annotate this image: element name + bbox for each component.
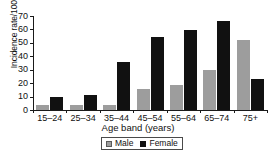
plot-area: 010203040506070 15–2425–3435–4445–5455–6…	[33, 16, 267, 111]
y-tick	[30, 83, 33, 84]
y-tick	[30, 97, 33, 98]
legend-swatch-female-icon	[140, 141, 146, 147]
bar-female	[50, 97, 63, 110]
legend-swatch-male-icon	[106, 141, 112, 147]
bar-chart: Incidence rate/100 000 010203040506070 1…	[0, 0, 276, 155]
y-tick	[30, 43, 33, 44]
bar-male	[103, 105, 116, 110]
y-tick	[30, 70, 33, 71]
bar-female	[184, 30, 197, 110]
legend-item-female[interactable]: Female	[140, 139, 177, 148]
legend-item-male[interactable]: Male	[106, 139, 133, 148]
y-tick-label: 0	[23, 106, 28, 115]
bar-female	[151, 37, 164, 110]
legend-label: Male	[115, 139, 133, 148]
bar-male	[70, 105, 83, 110]
x-axis-line	[33, 110, 267, 111]
bar-female	[217, 21, 230, 110]
legend-label: Female	[149, 139, 177, 148]
y-tick-label: 30	[18, 65, 28, 74]
y-tick-label: 50	[18, 38, 28, 47]
bar-male	[137, 89, 150, 110]
bar-male	[237, 40, 250, 110]
bar-male	[36, 105, 49, 110]
x-tick	[267, 110, 268, 113]
y-axis-line	[33, 16, 34, 111]
chart-legend: MaleFemale	[101, 137, 183, 150]
bar-female	[84, 95, 97, 110]
y-tick-label: 60	[18, 25, 28, 34]
y-tick-label: 40	[18, 52, 28, 61]
bar-male	[170, 85, 183, 111]
y-tick-label: 10	[18, 92, 28, 101]
bar-male	[203, 70, 216, 110]
y-tick-label: 20	[18, 79, 28, 88]
bar-female	[117, 62, 130, 110]
y-tick-label: 70	[18, 12, 28, 21]
y-tick	[30, 29, 33, 30]
bar-female	[251, 79, 264, 110]
y-tick	[30, 16, 33, 17]
x-axis-title: Age band (years)	[0, 122, 276, 133]
y-tick	[30, 56, 33, 57]
